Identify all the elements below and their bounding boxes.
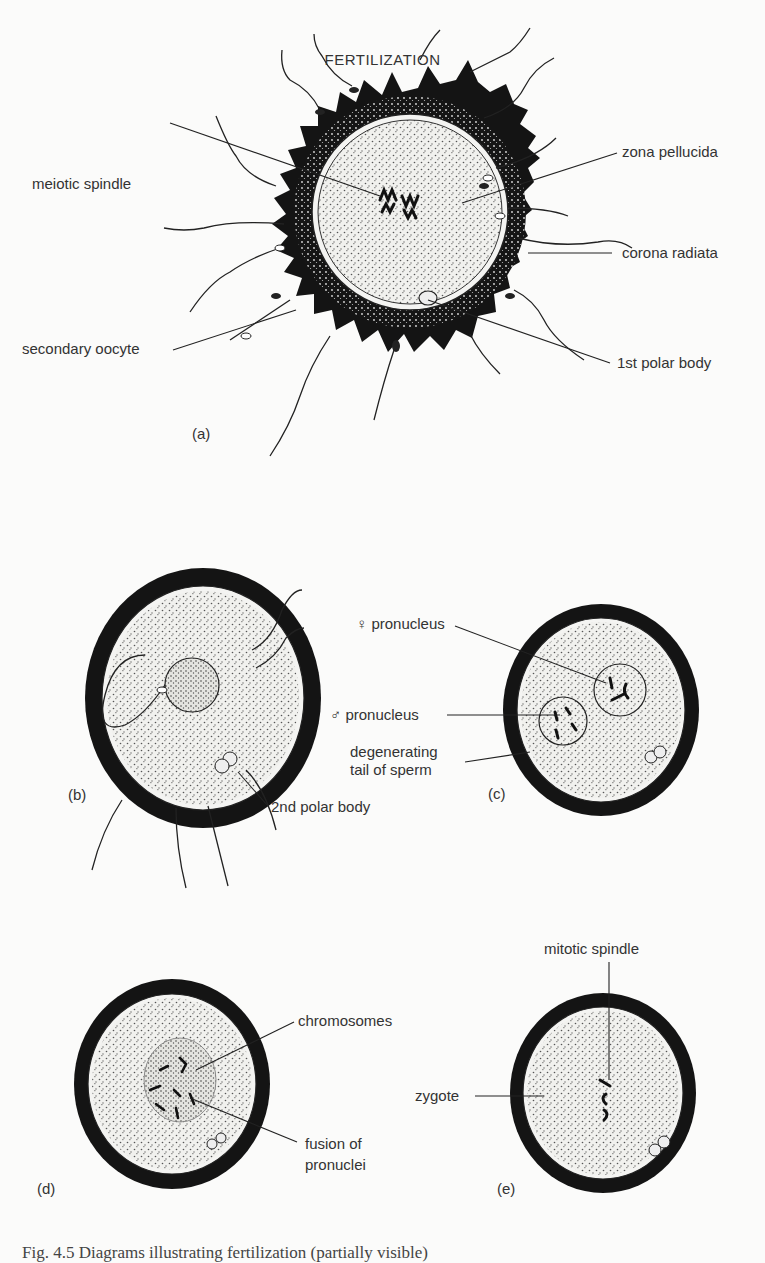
panel-label-d: (d) — [37, 1180, 55, 1197]
panel-label-a: (a) — [192, 425, 210, 442]
panel-c-pronuclei — [447, 604, 699, 816]
panel-label-c: (c) — [488, 785, 506, 802]
label-meiotic-spindle: meiotic spindle — [32, 175, 131, 193]
panel-d-fusion — [74, 979, 297, 1189]
label-zygote: zygote — [415, 1087, 459, 1105]
first-polar-body-shape — [419, 291, 437, 305]
label-female-pronucleus: ♀ pronucleus — [356, 615, 445, 633]
panel-label-e: (e) — [497, 1180, 515, 1197]
figure-caption: Fig. 4.5 Diagrams illustrating fertiliza… — [22, 1243, 428, 1263]
label-mitotic-spindle: mitotic spindle — [544, 940, 639, 958]
label-corona-radiata: corona radiata — [622, 244, 718, 262]
label-secondary-oocyte: secondary oocyte — [22, 340, 140, 358]
label-fusion-line1: fusion of — [305, 1135, 362, 1153]
figure-title: FERTILIZATION — [0, 51, 765, 68]
label-degenerating-tail-line1: degenerating — [350, 743, 438, 761]
label-first-polar-body: 1st polar body — [617, 354, 711, 372]
label-degenerating-tail-line2: tail of sperm — [350, 761, 432, 779]
male-pronucleus-c — [539, 697, 587, 745]
label-fusion-line2: pronuclei — [305, 1156, 366, 1174]
label-male-pronucleus: ♂ pronucleus — [330, 706, 419, 724]
panel-a-oocyte — [164, 28, 632, 456]
label-chromosomes: chromosomes — [298, 1012, 392, 1030]
panel-label-b: (b) — [68, 786, 86, 803]
female-pronucleus-shape — [165, 658, 219, 712]
female-pronucleus-c — [594, 664, 646, 716]
panel-e-zygote — [475, 962, 696, 1193]
label-zona-pellucida: zona pellucida — [622, 143, 718, 161]
label-second-polar-body: 2nd polar body — [271, 798, 370, 816]
panel-b-sperm-entry — [85, 568, 321, 888]
